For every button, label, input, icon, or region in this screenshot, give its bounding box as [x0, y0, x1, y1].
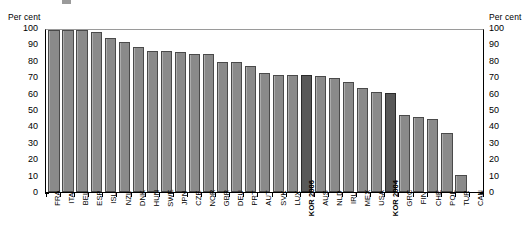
- bar: [48, 30, 59, 192]
- y-tick-label-left: 80: [12, 57, 38, 66]
- bar-slot: [201, 30, 215, 192]
- bar: [203, 54, 214, 192]
- bar: [259, 73, 270, 192]
- bar-slot: [103, 30, 117, 192]
- y-tick-label-left: 60: [12, 90, 38, 99]
- right-axis-title: Per cent: [489, 12, 521, 22]
- left-axis-title: Per cent: [8, 12, 40, 22]
- plot-area: [45, 29, 484, 193]
- category-label-slot: SVK: [272, 198, 286, 251]
- y-tick-label-right: 30: [489, 139, 515, 148]
- category-label-slot: FRA: [46, 198, 60, 251]
- bar-slot: [229, 30, 243, 192]
- bar-series: [46, 30, 483, 192]
- bar-slot: [286, 30, 300, 192]
- bar-slot: [131, 30, 145, 192]
- bar-slot: [187, 30, 201, 192]
- bar: [105, 38, 116, 192]
- bar: [287, 75, 298, 192]
- y-tick-label-right: 0: [489, 188, 515, 197]
- bar-slot: [370, 30, 384, 192]
- bar: [399, 115, 410, 192]
- bar: [245, 66, 256, 192]
- bar: [175, 52, 186, 192]
- category-label-slot: PRT: [243, 198, 257, 251]
- bar-slot: [356, 30, 370, 192]
- bar-slot: [89, 30, 103, 192]
- bar: [147, 51, 158, 192]
- bar-slot: [412, 30, 426, 192]
- y-tick-label-left: 50: [12, 106, 38, 115]
- bar-slot: [47, 30, 61, 192]
- bar: [441, 133, 452, 192]
- category-label-slot: DNK: [131, 198, 145, 251]
- category-label-slot: POL: [441, 198, 455, 251]
- y-tick-label-left: 100: [12, 24, 38, 33]
- y-tick-label-left: 30: [12, 139, 38, 148]
- y-tick-label-left: 90: [12, 40, 38, 49]
- y-tick-label-left: 70: [12, 73, 38, 82]
- category-label-slot: BEL: [74, 198, 88, 251]
- bar-slot: [215, 30, 229, 192]
- bar: [76, 30, 87, 192]
- category-label-slot: NZL: [116, 198, 130, 251]
- category-label-slot: ISL: [102, 198, 116, 251]
- category-label-slot: FIN: [412, 198, 426, 251]
- bar-slot: [454, 30, 468, 192]
- bar-slot: [173, 30, 187, 192]
- bar: [217, 62, 228, 192]
- bar: [119, 42, 130, 192]
- bar: [189, 54, 200, 193]
- bar: [91, 32, 102, 192]
- category-label-slot: KOR 2006: [300, 198, 314, 251]
- y-tick-label-left: 0: [12, 188, 38, 197]
- category-label-slot: CHE: [427, 198, 441, 251]
- y-tick-label-right: 50: [489, 106, 515, 115]
- y-tick-label-right: 80: [489, 57, 515, 66]
- y-tick-label-right: 90: [489, 40, 515, 49]
- category-label-slot: USA: [370, 198, 384, 251]
- y-tick-label-right: 70: [489, 73, 515, 82]
- bar: [329, 78, 340, 192]
- y-tick-label-right: 40: [489, 122, 515, 131]
- bar-slot: [384, 30, 398, 192]
- x-tick: [46, 193, 47, 197]
- bar: [301, 75, 312, 192]
- category-label-slot: ESP: [88, 198, 102, 251]
- bar-slot: [117, 30, 131, 192]
- bar-slot: [468, 30, 482, 192]
- bar-slot: [159, 30, 173, 192]
- category-label-slot: AUT: [257, 198, 271, 251]
- y-tick-label-right: 20: [489, 155, 515, 164]
- category-label-slot: HUN: [145, 198, 159, 251]
- bar: [62, 30, 73, 192]
- bar: [273, 75, 284, 192]
- bar: [371, 92, 382, 192]
- bar: [231, 62, 242, 192]
- category-label-slot: CZE: [187, 198, 201, 251]
- y-tick-label-right: 10: [489, 172, 515, 181]
- bar: [413, 117, 424, 192]
- category-label-slot: NOR: [201, 198, 215, 251]
- category-label-slot: MEX: [356, 198, 370, 251]
- bar-slot: [398, 30, 412, 192]
- category-label-slot: KOR 2004: [384, 198, 398, 251]
- bar-slot: [243, 30, 257, 192]
- bar: [343, 82, 354, 192]
- bar: [161, 51, 172, 192]
- cropped-line-artefact: [62, 0, 71, 4]
- bar-slot: [272, 30, 286, 192]
- y-tick-label-left: 10: [12, 172, 38, 181]
- category-label-slot: GRC: [398, 198, 412, 251]
- category-label-slot: NLD: [328, 198, 342, 251]
- category-label-slot: SWE: [159, 198, 173, 251]
- category-label-slot: ITA: [60, 198, 74, 251]
- y-tick-label-right: 60: [489, 90, 515, 99]
- bar: [385, 93, 396, 192]
- bar-slot: [61, 30, 75, 192]
- category-label-slot: JPN: [173, 198, 187, 251]
- category-label-slot: CAN: [469, 198, 483, 251]
- bar-slot: [314, 30, 328, 192]
- bar-slot: [145, 30, 159, 192]
- bar-slot: [426, 30, 440, 192]
